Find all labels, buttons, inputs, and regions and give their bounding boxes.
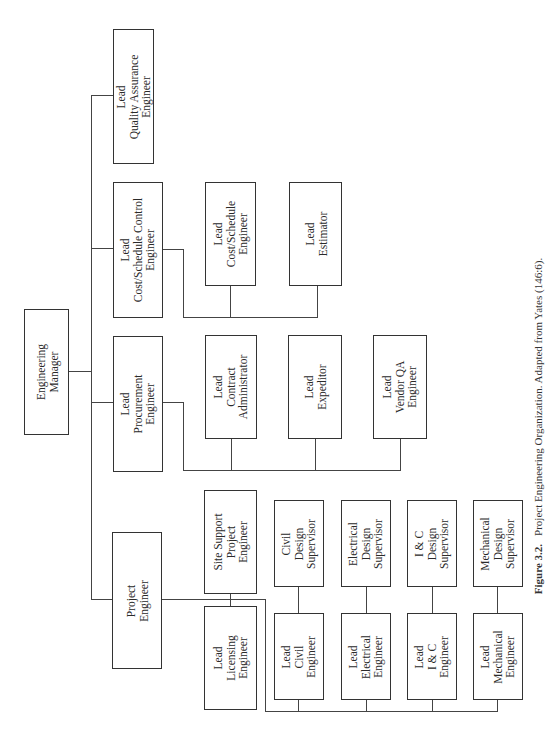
org-box-label-line: Lead: [303, 364, 316, 409]
connector-line: [432, 586, 433, 613]
org-box-label-line: Supervisor: [438, 519, 451, 569]
org-box-label-line: Engineer: [406, 361, 419, 414]
org-box-label-line: Lead: [119, 375, 132, 434]
org-box-label: LeadExpeditor: [303, 364, 328, 409]
org-box-label: LeadProcurementEngineer: [119, 375, 157, 434]
figure-caption: Figure 3.2.Project Engineering Organizat…: [532, 258, 544, 594]
org-box-label: Site SupportProjectEngineer: [212, 513, 250, 570]
connector-line: [298, 699, 299, 711]
org-box-label: LeadI & CEngineer: [413, 636, 451, 678]
connector-line: [183, 317, 318, 318]
org-box-label-line: Mechanical: [492, 630, 505, 684]
connector-line: [265, 599, 266, 711]
org-box-label-line: Lead: [119, 198, 132, 302]
connector-line: [366, 699, 367, 711]
org-box-label-line: Engineer: [504, 630, 517, 684]
org-box-label-line: I & C: [426, 636, 439, 678]
org-box-label: ElectricalDesignSupervisor: [347, 519, 385, 569]
org-box-label-line: Engineer: [372, 634, 385, 678]
org-box-label-line: Lead: [212, 635, 225, 680]
connector-line: [91, 95, 92, 600]
org-box-label-line: Engineer: [144, 198, 157, 302]
org-box-label-line: Engineering: [34, 344, 47, 400]
org-box-label-line: Estimator: [316, 212, 329, 257]
org-box-label-line: Lead: [212, 355, 225, 420]
figure-caption-text: Project Engineering Organization. Adapte…: [532, 258, 544, 536]
org-box-label-line: Procurement: [132, 375, 145, 434]
org-box-label-line: Electrical: [347, 519, 360, 569]
org-box-label-line: I & C: [413, 519, 426, 569]
org-box-label-line: Civil: [293, 636, 306, 678]
org-box-label-line: Engineer: [137, 580, 150, 622]
org-box-label: LeadElectricalEngineer: [347, 634, 385, 678]
connector-line: [230, 593, 231, 607]
org-box-label-line: Engineer: [144, 375, 157, 434]
connector-line: [315, 438, 316, 470]
connector-line: [317, 285, 318, 317]
org-box-label-line: Lead: [303, 212, 316, 257]
connector-line: [432, 699, 433, 711]
org-box-label: LeadCivilEngineer: [280, 636, 318, 678]
connector-line: [68, 371, 92, 372]
org-box-label-line: Supervisor: [305, 519, 318, 569]
org-box-electrical-design-supervisor: ElectricalDesignSupervisor: [341, 500, 391, 587]
org-box-label-line: Contract: [225, 355, 238, 420]
org-box-label-line: Project: [224, 513, 237, 570]
org-box-label: I & CDesignSupervisor: [413, 519, 451, 569]
org-box-lead-quality-assurance-engineer: LeadQuality AssuranceEngineer: [113, 29, 154, 164]
org-box-label-line: Engineer: [140, 54, 153, 139]
org-box-label-line: Manager: [47, 344, 60, 400]
org-box-lead-vendor-qa-engineer: LeadVendor QAEngineer: [373, 335, 427, 439]
org-box-lead-cost-schedule-engineer: LeadCost/ScheduleEngineer: [205, 182, 256, 286]
connector-line: [366, 586, 367, 613]
org-box-lead-procurement-engineer: LeadProcurementEngineer: [113, 336, 163, 472]
org-box-mechanical-design-supervisor: MechanicalDesignSupervisor: [473, 500, 523, 587]
org-box-lead-estimator: LeadEstimator: [289, 182, 342, 286]
org-box-label: EngineeringManager: [34, 344, 59, 400]
connector-line: [162, 402, 183, 403]
org-box-label: CivilDesignSupervisor: [280, 519, 318, 569]
org-box-label-line: Cost/Schedule Control: [132, 198, 145, 302]
org-box-label-line: Design: [360, 519, 373, 569]
org-box-label-line: Expeditor: [315, 364, 328, 409]
org-box-lead-electrical-engineer: LeadElectricalEngineer: [341, 613, 391, 700]
org-box-label-line: Electrical: [360, 634, 373, 678]
org-box-label-line: Engineer: [237, 201, 250, 267]
org-box-label-line: Cost/Schedule: [224, 201, 237, 267]
org-box-lead-civil-engineer: LeadCivilEngineer: [274, 613, 324, 700]
org-box-label: LeadContractAdministrator: [212, 355, 250, 420]
org-box-label: MechanicalDesignSupervisor: [479, 517, 517, 571]
org-box-i-and-c-design-supervisor: I & CDesignSupervisor: [407, 500, 457, 587]
org-box-label-line: Project: [125, 580, 138, 622]
org-box-label: ProjectEngineer: [125, 580, 150, 622]
org-box-label-line: Lead: [479, 630, 492, 684]
org-box-label-line: Licensing: [224, 635, 237, 680]
org-box-label-line: Supervisor: [504, 517, 517, 571]
org-box-label-line: Lead: [115, 54, 128, 139]
org-box-label-line: Engineer: [438, 636, 451, 678]
org-box-lead-mechanical-engineer: LeadMechanicalEngineer: [473, 613, 523, 700]
org-box-label-line: Vendor QA: [394, 361, 407, 414]
connector-line: [497, 699, 498, 711]
connector-line: [230, 285, 231, 317]
org-box-label-line: Design: [426, 519, 439, 569]
connector-line: [298, 586, 299, 613]
connector-line: [231, 438, 232, 470]
connector-line: [183, 470, 401, 471]
org-box-label: LeadVendor QAEngineer: [381, 361, 419, 414]
org-box-lead-i-and-c-engineer: LeadI & CEngineer: [407, 613, 457, 700]
figure-number: Figure 3.2.: [532, 544, 544, 594]
org-box-engineering-manager: EngineeringManager: [24, 309, 69, 435]
org-box-label: LeadEstimator: [303, 212, 328, 257]
org-box-label-line: Administrator: [237, 355, 250, 420]
connector-line: [183, 249, 184, 317]
org-box-label-line: Lead: [381, 361, 394, 414]
org-box-label-line: Lead: [280, 636, 293, 678]
org-box-label-line: Lead: [212, 201, 225, 267]
connector-line: [497, 586, 498, 613]
org-box-label-line: Engineer: [237, 513, 250, 570]
org-box-label-line: Supervisor: [372, 519, 385, 569]
org-box-site-support-project-engineer: Site SupportProjectEngineer: [204, 490, 257, 594]
connector-line: [183, 402, 184, 470]
org-box-label: LeadQuality AssuranceEngineer: [115, 54, 153, 139]
